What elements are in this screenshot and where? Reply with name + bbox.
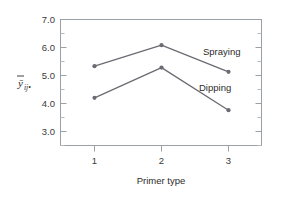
y-axis-minor-ticks (61, 34, 65, 146)
interaction-plot-svg: 7.0 6.0 5.0 4.0 3.0 ȳ ij• 1 2 3 Primer … (0, 0, 285, 198)
series-label-dipping: Dipping (199, 82, 231, 93)
y-axis-major-ticks (61, 20, 67, 132)
y-axis-title-base: ȳ (17, 77, 24, 89)
plot-frame (61, 20, 262, 146)
data-point (92, 96, 96, 100)
x-tick-label-1: 1 (92, 155, 97, 166)
data-point (92, 64, 96, 68)
x-axis-ticks (95, 146, 229, 152)
data-point (159, 66, 163, 70)
y-axis-title-subscript: ij• (24, 83, 31, 92)
y-tick-label-3: 3.0 (42, 126, 55, 137)
data-point (226, 108, 230, 112)
y-axis-right-ticks (256, 20, 262, 146)
y-axis-title: ȳ ij• (17, 76, 31, 92)
series-spraying: Spraying (92, 43, 240, 74)
y-tick-label-4: 4.0 (42, 98, 55, 109)
series-label-spraying: Spraying (203, 46, 241, 57)
x-tick-label-3: 3 (226, 155, 231, 166)
x-axis-tick-labels: 1 2 3 (92, 155, 231, 166)
data-point (226, 70, 230, 74)
y-tick-label-5: 5.0 (42, 70, 55, 81)
data-point (159, 43, 163, 47)
chart-figure: 7.0 6.0 5.0 4.0 3.0 ȳ ij• 1 2 3 Primer … (0, 0, 285, 198)
y-tick-label-6: 6.0 (42, 42, 55, 53)
x-axis-title: Primer type (137, 175, 186, 186)
y-axis-tick-labels: 7.0 6.0 5.0 4.0 3.0 (42, 14, 55, 137)
x-tick-label-2: 2 (159, 155, 164, 166)
series-dipping: Dipping (92, 66, 231, 113)
y-tick-label-7: 7.0 (42, 14, 55, 25)
